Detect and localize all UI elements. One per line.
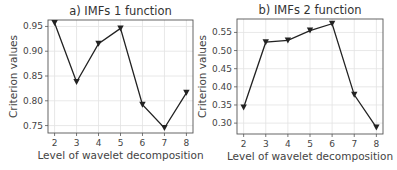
x-tick-label: 5 [118, 138, 124, 148]
y-tick-label: 0.95 [23, 21, 43, 31]
x-tick-label: 2 [241, 139, 247, 149]
x-axis-label: Level of wavelet decomposition [227, 150, 393, 162]
x-tick-label: 4 [285, 139, 291, 149]
x-tick-label: 8 [184, 138, 190, 148]
x-tick-label: 3 [74, 138, 80, 148]
x-tick-label: 4 [96, 138, 102, 148]
x-tick-label: 3 [263, 139, 269, 149]
y-tick-label: 0.40 [212, 82, 232, 92]
grid [237, 19, 383, 134]
triangle-down-marker [73, 79, 79, 85]
x-tick-label: 7 [351, 139, 357, 149]
x-tick-label: 6 [140, 138, 146, 148]
x-tick-label: 6 [329, 139, 335, 149]
chart-panel-b: 0.300.350.400.450.500.552345678b) IMFs 2… [196, 3, 393, 162]
y-tick-label: 0.30 [212, 118, 232, 128]
y-tick-label: 0.75 [23, 121, 43, 131]
chart-title: b) IMFs 2 function [259, 3, 362, 17]
triangle-down-marker [183, 90, 189, 96]
y-tick-label: 0.80 [23, 96, 43, 106]
triangle-down-marker [329, 21, 335, 27]
triangle-down-marker [95, 41, 101, 47]
x-tick-label: 2 [52, 138, 58, 148]
y-tick-label: 0.90 [23, 46, 43, 56]
triangle-down-marker [373, 124, 379, 130]
figure: 0.750.800.850.900.952345678a) IMFs 1 fun… [0, 0, 397, 170]
x-tick-label: 5 [307, 139, 313, 149]
x-tick-label: 8 [373, 139, 379, 149]
y-axis-label: Criterion values [196, 35, 208, 118]
triangle-down-marker [161, 125, 167, 131]
y-axis-label: Criterion values [7, 35, 19, 118]
y-tick-label: 0.85 [23, 71, 43, 81]
triangle-down-marker [240, 105, 246, 111]
x-axis-label: Level of wavelet decomposition [37, 149, 203, 161]
y-tick-label: 0.55 [212, 27, 232, 37]
x-tick-label: 7 [162, 138, 168, 148]
y-tick-label: 0.35 [212, 100, 232, 110]
y-tick-label: 0.45 [212, 64, 232, 74]
triangle-down-marker [351, 92, 357, 98]
triangle-down-marker [51, 20, 57, 26]
chart-panel-a: 0.750.800.850.900.952345678a) IMFs 1 fun… [7, 4, 204, 161]
y-tick-label: 0.50 [212, 46, 232, 56]
chart-title: a) IMFs 1 function [69, 4, 172, 18]
